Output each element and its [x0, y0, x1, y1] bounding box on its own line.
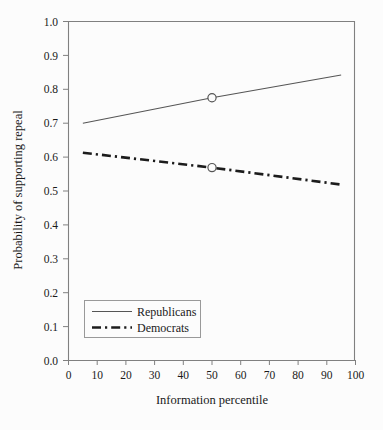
legend: Republicans Democrats: [85, 301, 201, 338]
y-axis-title: Probability of supporting repeal: [11, 110, 25, 270]
y-tick-label: 0.8: [44, 83, 59, 95]
x-tick-label: 60: [235, 369, 247, 381]
line-chart: 1.0 0.9 0.8 0.7 0.6 0.5 0.4 0.3 0.2 0.1 …: [0, 0, 383, 430]
x-tick-label: 40: [178, 369, 190, 381]
x-tick-label: 30: [149, 369, 161, 381]
legend-label-democrats: Democrats: [137, 321, 189, 335]
data-marker-republicans: [208, 94, 216, 102]
x-tick-label: 70: [264, 369, 276, 381]
x-tick-label: 100: [347, 369, 365, 381]
x-axis-title: Information percentile: [156, 393, 269, 407]
y-tick-label: 0.9: [44, 50, 59, 62]
y-tick-label: 0.2: [44, 287, 59, 299]
legend-label-republicans: Republicans: [137, 305, 197, 319]
x-tick-label: 90: [321, 369, 333, 381]
x-tick-label: 50: [206, 369, 218, 381]
y-axis-ticks: 1.0 0.9 0.8 0.7 0.6 0.5 0.4 0.3 0.2 0.1 …: [44, 16, 68, 367]
chart-container: 1.0 0.9 0.8 0.7 0.6 0.5 0.4 0.3 0.2 0.1 …: [0, 0, 383, 430]
y-tick-label: 1.0: [44, 16, 59, 28]
y-tick-label: 0.6: [44, 151, 59, 163]
data-marker-democrats: [208, 164, 216, 172]
y-tick-label: 0.4: [44, 219, 59, 231]
y-tick-label: 0.1: [44, 321, 59, 333]
x-tick-label: 10: [91, 369, 103, 381]
x-axis-ticks: 0 10 20 30 40 50 60 70 80 90 100: [66, 360, 365, 381]
x-tick-label: 20: [120, 369, 132, 381]
x-tick-label: 80: [292, 369, 304, 381]
y-tick-label: 0.0: [44, 355, 59, 367]
y-tick-label: 0.7: [44, 117, 59, 129]
data-series-group: [83, 75, 341, 185]
y-tick-label: 0.5: [44, 185, 59, 197]
x-tick-label: 0: [66, 369, 72, 381]
y-tick-label: 0.3: [44, 253, 59, 265]
